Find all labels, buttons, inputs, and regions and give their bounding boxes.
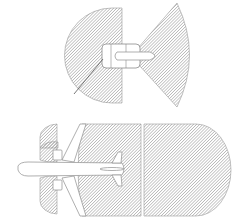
bottom-view bbox=[18, 124, 231, 216]
hazard-zone-diagram bbox=[0, 0, 234, 223]
top-view bbox=[65, 3, 190, 107]
exhaust-zone-far bbox=[144, 124, 231, 216]
